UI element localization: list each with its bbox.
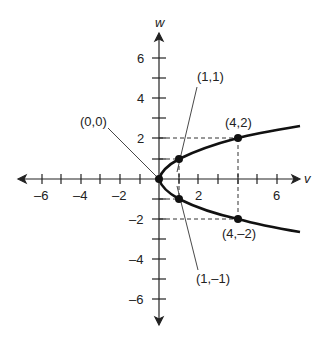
- v-tick-label: –2: [112, 188, 126, 203]
- graph-container: w v –6 –4 –2 2 6 6 4 2 –2 –4 –6: [0, 0, 325, 338]
- w-tick-label: –6: [129, 292, 143, 307]
- w-tick-label: 6: [137, 51, 144, 66]
- v-tick-label: –4: [73, 188, 87, 203]
- leader-origin: [108, 128, 157, 177]
- label-1-m1: (1,–1): [196, 271, 230, 286]
- point-4-2: [234, 134, 242, 142]
- point-1-m1: [175, 195, 183, 203]
- point-4-m2: [234, 215, 242, 223]
- v-tick-label: 6: [273, 188, 280, 203]
- v-tick-label: 2: [195, 188, 202, 203]
- label-origin: (0,0): [80, 114, 107, 129]
- w-tick-label: 4: [137, 91, 144, 106]
- v-axis-label: v: [304, 171, 312, 186]
- w-tick-label: –2: [129, 212, 143, 227]
- point-origin: [155, 175, 163, 183]
- label-4-2: (4,2): [225, 115, 252, 130]
- w-axis-label: w: [155, 15, 166, 30]
- w-tick-label: 2: [137, 131, 144, 146]
- label-4-m2: (4,–2): [222, 226, 256, 241]
- label-1-1: (1,1): [197, 69, 224, 84]
- v-tick-label: –6: [34, 188, 48, 203]
- parabola-graph: w v –6 –4 –2 2 6 6 4 2 –2 –4 –6: [0, 0, 325, 338]
- v-tick-labels: –6 –4 –2 2 6: [34, 188, 280, 203]
- point-1-1: [175, 155, 183, 163]
- w-tick-label: –4: [129, 252, 143, 267]
